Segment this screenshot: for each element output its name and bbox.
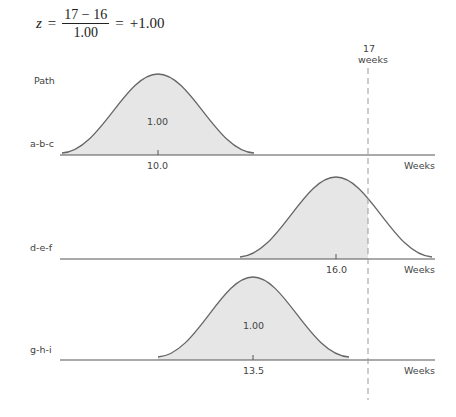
path-label: g-h-i xyxy=(30,344,52,355)
area-label: 1.00 xyxy=(147,116,168,127)
threshold-unit: weeks xyxy=(358,54,388,65)
path-header: Path xyxy=(34,75,55,86)
curve-g-h-i xyxy=(158,277,349,360)
path-label: d-e-f xyxy=(30,242,52,253)
mean-label: 13.5 xyxy=(243,365,264,376)
area-label: 1.00 xyxy=(243,320,264,331)
mean-label: 16.0 xyxy=(326,264,347,275)
threshold-label: 17 weeks xyxy=(358,43,380,65)
axis-label: Weeks xyxy=(404,160,435,171)
threshold-value: 17 xyxy=(363,43,375,54)
curve-a-b-c xyxy=(62,74,254,155)
axis-label: Weeks xyxy=(404,365,435,376)
path-label: a-b-c xyxy=(30,138,54,149)
mean-label: 10.0 xyxy=(147,160,168,171)
axis-label: Weeks xyxy=(404,264,435,275)
